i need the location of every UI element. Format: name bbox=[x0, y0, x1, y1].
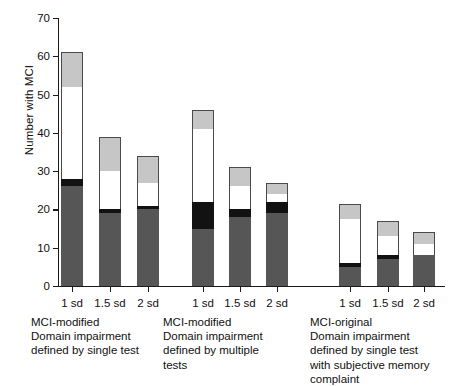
bar-segment bbox=[266, 183, 288, 194]
bar-segment bbox=[61, 179, 83, 187]
bar-segment bbox=[192, 110, 214, 129]
x-axis-tick bbox=[277, 286, 278, 292]
bar-segment bbox=[339, 219, 361, 263]
bar-segment bbox=[377, 221, 399, 236]
bar-segment bbox=[377, 259, 399, 286]
bar-segment bbox=[99, 213, 121, 286]
x-axis-tick bbox=[110, 286, 111, 292]
bar-segment bbox=[99, 137, 121, 171]
bar bbox=[192, 110, 214, 286]
y-axis-tick-label: 50 bbox=[37, 89, 50, 101]
bar-segment bbox=[137, 183, 159, 206]
x-axis-label: 2 sd bbox=[413, 297, 435, 309]
x-axis-tick bbox=[203, 286, 204, 292]
bar-segment bbox=[137, 156, 159, 183]
y-axis-tick bbox=[53, 18, 59, 19]
bar-segment bbox=[61, 87, 83, 179]
bar-segment bbox=[266, 213, 288, 286]
y-axis-title: Number with MCI bbox=[23, 35, 35, 185]
bar-segment bbox=[99, 171, 121, 209]
bar-segment bbox=[339, 204, 361, 219]
y-axis-line bbox=[58, 18, 59, 287]
bar-segment bbox=[413, 255, 435, 286]
x-axis-tick bbox=[148, 286, 149, 292]
y-axis-tick bbox=[53, 133, 59, 134]
bar-segment bbox=[61, 186, 83, 286]
bar-segment bbox=[413, 244, 435, 255]
bar bbox=[413, 232, 435, 286]
bar bbox=[266, 183, 288, 286]
x-axis-tick bbox=[240, 286, 241, 292]
bar bbox=[137, 156, 159, 286]
bar-segment bbox=[377, 236, 399, 255]
y-axis-tick-label: 10 bbox=[37, 242, 50, 254]
bar-segment bbox=[61, 52, 83, 86]
x-axis-label: 1 sd bbox=[61, 297, 83, 309]
x-axis-label: 1.5 sd bbox=[224, 297, 255, 309]
bar-segment bbox=[229, 217, 251, 286]
x-axis-label: 2 sd bbox=[266, 297, 288, 309]
bar-segment bbox=[192, 202, 214, 229]
bar-segment bbox=[229, 186, 251, 209]
bar bbox=[61, 52, 83, 286]
group-caption: MCI-original Domain impairment defined b… bbox=[310, 315, 430, 386]
y-axis-tick-label: 0 bbox=[44, 280, 50, 292]
bar bbox=[229, 167, 251, 286]
y-axis-tick-label: 40 bbox=[37, 127, 50, 139]
y-axis-tick-label: 70 bbox=[37, 12, 50, 24]
x-axis-line bbox=[58, 286, 445, 287]
bar-segment bbox=[192, 129, 214, 202]
plot-area: 010203040506070 bbox=[59, 18, 445, 286]
bar bbox=[99, 137, 121, 286]
bar bbox=[377, 221, 399, 286]
group-caption: MCI-modified Domain impairment defined b… bbox=[31, 315, 139, 358]
bar-segment bbox=[266, 202, 288, 213]
x-axis-tick bbox=[72, 286, 73, 292]
y-axis-tick bbox=[53, 209, 59, 210]
x-axis-tick bbox=[424, 286, 425, 292]
y-axis-tick-label: 60 bbox=[37, 50, 50, 62]
bar-segment bbox=[192, 229, 214, 286]
bar bbox=[339, 204, 361, 286]
x-axis-tick bbox=[350, 286, 351, 292]
x-axis-label: 2 sd bbox=[137, 297, 159, 309]
y-axis-tick bbox=[53, 248, 59, 249]
y-axis-tick bbox=[53, 286, 59, 287]
x-axis-label: 1 sd bbox=[339, 297, 361, 309]
y-axis-tick bbox=[53, 95, 59, 96]
bar-segment bbox=[413, 232, 435, 243]
x-axis-label: 1.5 sd bbox=[372, 297, 403, 309]
bar-segment bbox=[229, 209, 251, 217]
bar-segment bbox=[266, 194, 288, 202]
bar-segment bbox=[229, 167, 251, 186]
bar-segment bbox=[339, 267, 361, 286]
group-caption: MCI-modified Domain impairment defined b… bbox=[163, 315, 263, 372]
x-axis-tick bbox=[388, 286, 389, 292]
y-axis-tick-label: 30 bbox=[37, 165, 50, 177]
y-axis-tick bbox=[53, 56, 59, 57]
x-axis-label: 1 sd bbox=[192, 297, 214, 309]
y-axis-tick-label: 20 bbox=[37, 203, 50, 215]
bar-segment bbox=[137, 209, 159, 286]
x-axis-label: 1.5 sd bbox=[94, 297, 125, 309]
y-axis-tick bbox=[53, 171, 59, 172]
